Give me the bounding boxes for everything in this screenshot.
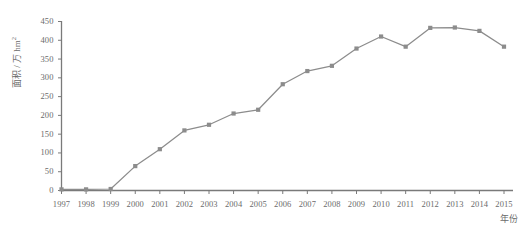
data-point-marker <box>133 164 137 168</box>
data-point-marker <box>453 25 457 29</box>
data-point-marker <box>207 123 211 127</box>
data-point-marker <box>158 147 162 151</box>
data-point-marker <box>59 187 63 191</box>
data-point-marker <box>256 108 260 112</box>
data-point-marker <box>305 69 309 73</box>
data-point-marker <box>330 64 334 68</box>
data-point-marker <box>231 111 235 115</box>
axes-group <box>61 21 513 191</box>
data-point-marker <box>182 128 186 132</box>
data-point-marker <box>477 29 481 33</box>
data-point-marker <box>502 45 506 49</box>
data-point-marker <box>404 45 408 49</box>
data-point-marker <box>84 187 88 191</box>
data-point-marker <box>281 82 285 86</box>
data-point-marker <box>354 46 358 50</box>
plot-area <box>0 0 530 237</box>
data-series-line <box>62 28 505 190</box>
data-point-marker <box>379 34 383 38</box>
data-point-marker <box>428 26 432 30</box>
chart-figure: 面积 / 万 hm2 年份 05010015020025030035040045… <box>0 0 530 237</box>
data-point-marker <box>109 187 113 191</box>
data-series-markers <box>59 25 506 191</box>
